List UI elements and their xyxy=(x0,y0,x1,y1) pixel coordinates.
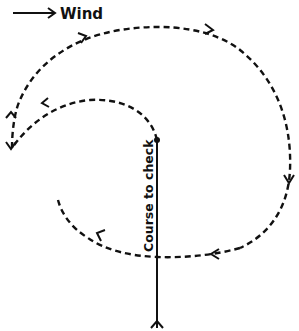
arrow-bottom-left-icon xyxy=(97,230,105,241)
arrow-top-right-icon xyxy=(205,24,213,34)
arrow-inner-arc-icon xyxy=(42,98,49,107)
course-label: Course to check xyxy=(141,139,156,252)
wind-label: Wind xyxy=(60,5,103,23)
diagram-canvas: Wind Course to check xyxy=(0,0,299,331)
wind-arrow-icon xyxy=(13,8,55,18)
